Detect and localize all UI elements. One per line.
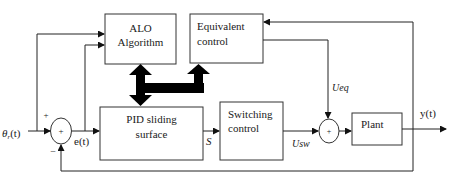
switching-label-line2: control <box>228 122 259 134</box>
surface-label: S <box>206 135 212 147</box>
summing-junction-2: + <box>319 119 339 143</box>
equivalent-label-line1: Equivalent <box>197 20 245 32</box>
alo-label-line1: ALO <box>129 22 152 34</box>
control-block-diagram: ALO Algorithm Equivalent control PID sli… <box>0 0 452 186</box>
plant-label: Plant <box>361 118 384 130</box>
output-label: y(t) <box>420 107 436 120</box>
summing-junction-1: + + − <box>43 110 71 157</box>
arrowhead-to-alo <box>129 64 152 75</box>
pid-label-line1: PID sliding <box>126 113 177 125</box>
usw-label: Usw <box>292 138 310 149</box>
alo-label-line2: Algorithm <box>118 36 164 48</box>
error-label: e(t) <box>74 135 90 148</box>
arrowhead-to-pid <box>129 95 152 106</box>
sum1-plus-sign: + <box>43 110 48 120</box>
pid-label-line2: surface <box>136 128 168 140</box>
plant-block: Plant <box>352 113 402 145</box>
switching-label-line1: Switching <box>228 108 273 120</box>
arrowhead-to-equivalent <box>187 64 210 74</box>
pid-sliding-surface-block: PID sliding surface <box>100 107 203 160</box>
sum1-minus-sign: − <box>50 146 56 157</box>
equivalent-label-line2: control <box>197 35 228 47</box>
switching-control-block: Switching control <box>220 102 283 160</box>
sum1-symbol: + <box>58 126 63 136</box>
input-label: θr(t) <box>2 127 21 141</box>
alo-algorithm-block: ALO Algorithm <box>105 14 176 64</box>
thick-connector-arrow <box>129 64 210 106</box>
ueq-label: Ueq <box>332 82 349 93</box>
sum2-symbol: + <box>327 127 332 136</box>
equivalent-control-block: Equivalent control <box>190 14 263 63</box>
